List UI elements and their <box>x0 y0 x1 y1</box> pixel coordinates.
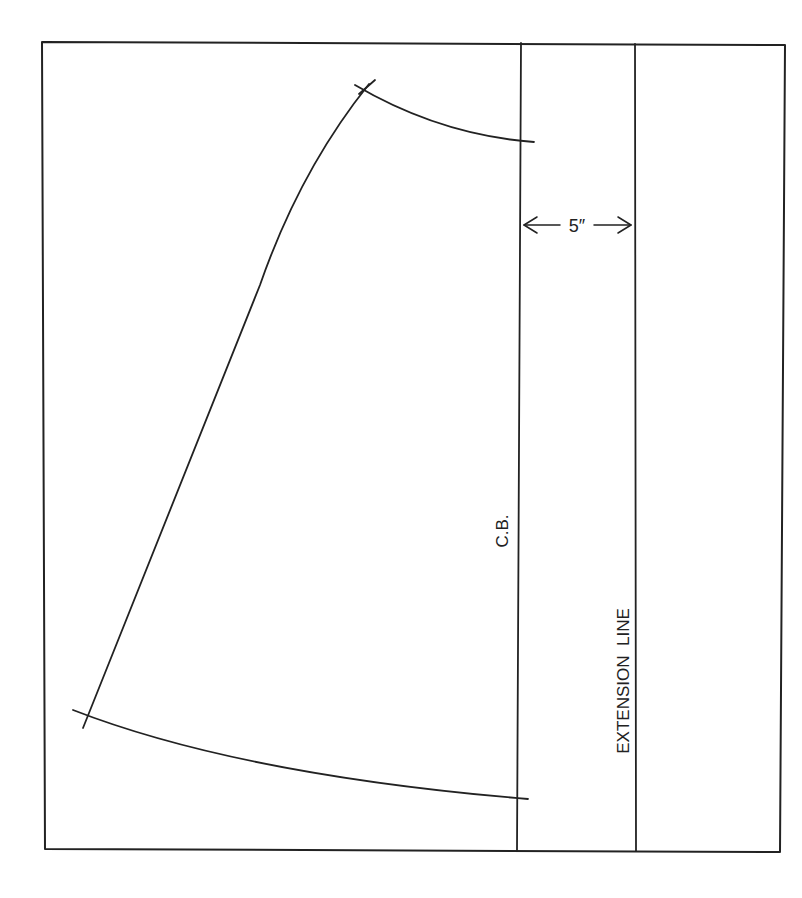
frame-border <box>42 42 785 852</box>
hem-curve <box>73 710 528 799</box>
measurement-label: 5″ <box>569 216 586 236</box>
extension-line-label: EXTENSION LINE <box>614 608 633 753</box>
pattern-diagram: 5″ C.B. EXTENSION LINE <box>0 0 802 898</box>
side-seam-line <box>83 84 369 728</box>
center-back-line <box>517 43 521 851</box>
extension-line <box>635 44 636 851</box>
waist-curve <box>355 85 534 142</box>
center-back-label: C.B. <box>493 514 512 547</box>
